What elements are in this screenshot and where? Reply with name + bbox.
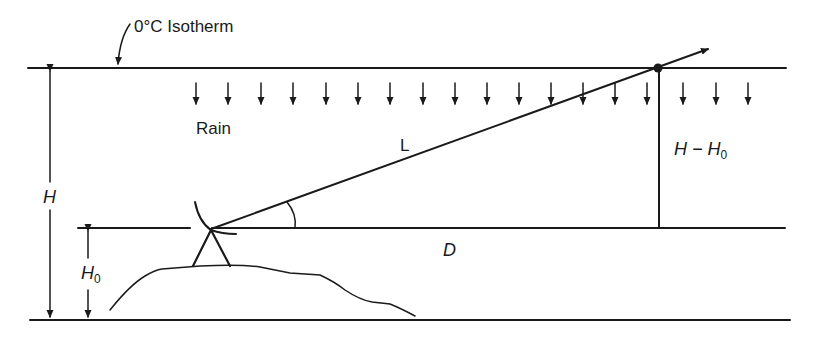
beam-intersection-point: [654, 64, 663, 73]
distance-label: D: [443, 241, 456, 259]
beam-arrow-icon: [211, 49, 708, 229]
hill-terrain: [110, 265, 415, 316]
radar-dish-icon: [195, 202, 236, 234]
height-antenna-label: H0: [81, 264, 101, 282]
tripod-icon: [193, 230, 230, 266]
height-antenna-subscript: 0: [94, 272, 101, 286]
height-difference-subscript: 0: [721, 148, 728, 162]
rain-label: Rain: [196, 120, 231, 137]
height-difference-main: H − H: [674, 139, 721, 159]
isotherm-pointer-arrow: [118, 24, 130, 64]
height-difference-label: H − H0: [674, 140, 727, 158]
isotherm-label: 0°C Isotherm: [134, 18, 233, 35]
height-antenna-symbol: H: [81, 263, 94, 283]
rain-arrows: [196, 83, 748, 104]
height-total-label: H: [43, 188, 56, 206]
path-length-label: L: [400, 137, 409, 154]
radar-geometry-diagram: [0, 0, 813, 340]
elevation-angle-arc: [287, 202, 295, 228]
